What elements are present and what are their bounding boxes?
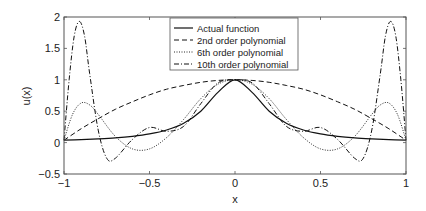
- legend-label: 6th order polynomial: [197, 47, 283, 58]
- y-axis-label: u(x): [20, 87, 32, 106]
- legend-label: Actual function: [197, 23, 259, 34]
- legend: Actual function 2nd order polynomial 6th…: [170, 18, 298, 70]
- x-axis-label: x: [232, 193, 238, 205]
- x-tick-label: 0.5: [313, 177, 328, 189]
- chart: −1−0.500.51−0.500.511.52 x u(x) Actual f…: [0, 0, 426, 211]
- y-tick-label: −0.5: [38, 168, 60, 180]
- y-tick-label: 2: [54, 11, 60, 23]
- y-tick-label: 0: [54, 137, 60, 149]
- x-tick-label: 0: [232, 177, 238, 189]
- x-tick-label: −0.5: [139, 177, 161, 189]
- y-tick-label: 0.5: [45, 105, 60, 117]
- series-line-dotted: [64, 80, 406, 151]
- y-tick-label: 1: [54, 74, 60, 86]
- series-line-solid: [64, 80, 406, 140]
- legend-label: 2nd order polynomial: [197, 35, 286, 46]
- x-tick-label: 1: [403, 177, 409, 189]
- series-line-dashed: [64, 80, 406, 140]
- legend-label: 10th order polynomial: [197, 59, 288, 70]
- y-tick-label: 1.5: [45, 42, 60, 54]
